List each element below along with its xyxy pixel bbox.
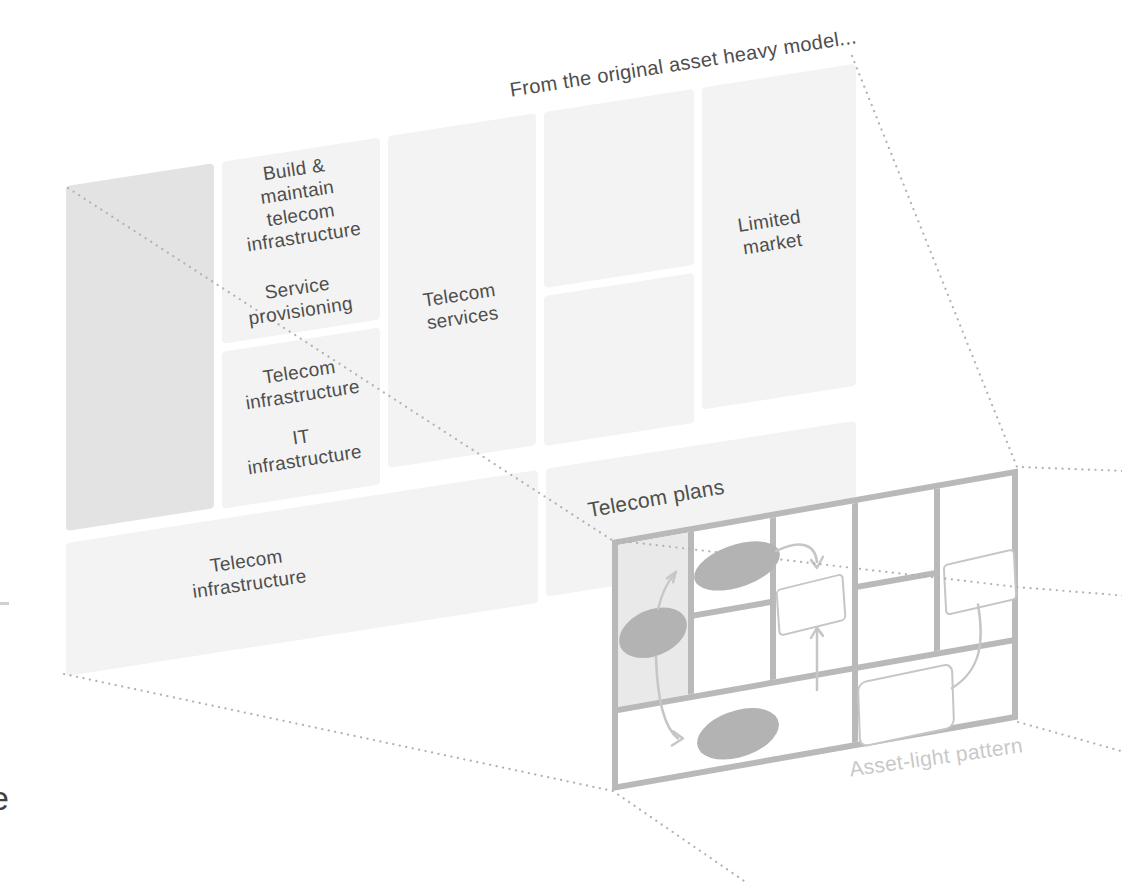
label-key-activities-build: Build & maintain telecom infrastructure	[235, 150, 362, 257]
block-channels	[544, 273, 694, 446]
block-key-partners	[66, 163, 214, 531]
label-customer-segment: Limited market	[736, 206, 805, 260]
page-edge-letter: e	[0, 779, 9, 818]
diagram-stage: From the original asset heavy model... B…	[0, 0, 1122, 883]
block-customer-relationships	[544, 89, 694, 288]
book-page-diagram: { "title": "From the original asset heav…	[0, 0, 1122, 883]
page-edge-dash	[0, 602, 9, 605]
